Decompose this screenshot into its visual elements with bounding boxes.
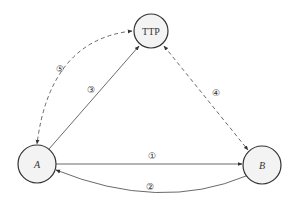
- node-a: A: [18, 145, 56, 183]
- edge-5-label: ⑤: [56, 64, 64, 74]
- edge-3-a-to-ttp: [49, 46, 139, 149]
- edge-1-label: ①: [148, 151, 156, 161]
- edge-3-label: ③: [87, 85, 95, 95]
- node-b-label: B: [259, 160, 265, 171]
- node-ttp: TTP: [134, 14, 168, 48]
- protocol-diagram: ① ② ③ ④ ⑤ TTP A B: [0, 0, 294, 211]
- node-b: B: [243, 146, 281, 184]
- node-ttp-label: TTP: [142, 26, 160, 37]
- edge-4-label: ④: [212, 88, 220, 98]
- edge-2-label: ②: [146, 182, 154, 192]
- edge-5-ttp-to-a: [37, 31, 132, 144]
- edge-4-ttp-to-b: [164, 46, 248, 150]
- node-a-label: A: [33, 159, 41, 170]
